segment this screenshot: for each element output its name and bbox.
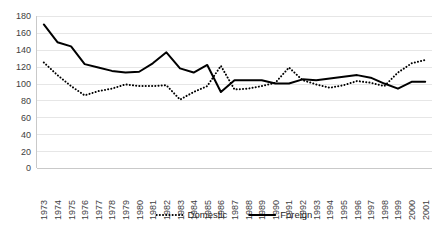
x-axis-tick-label: 1997 (366, 200, 376, 220)
x-axis-tick-label: 1976 (80, 200, 90, 220)
y-axis-tick-label: 40 (21, 130, 31, 140)
x-axis-tick-label: 2000 (407, 200, 417, 220)
x-axis-tick-label: 1988 (244, 200, 254, 220)
line-chart: 020406080100120140160180 197319741975197… (0, 0, 440, 236)
x-axis-tick-label: 1983 (176, 200, 186, 220)
x-axis-tick-label: 1974 (53, 200, 63, 220)
x-axis-tick-label: 1982 (162, 200, 172, 220)
x-axis-tick-labels: 1973197419751976197719781979198019811982… (39, 200, 430, 220)
x-axis-tick-label: 1994 (325, 200, 335, 220)
x-axis-tick-label: 1973 (39, 200, 49, 220)
y-axis-tick-label: 140 (16, 45, 31, 55)
chart-canvas: 020406080100120140160180 197319741975197… (0, 0, 440, 236)
y-axis-tick-label: 100 (16, 79, 31, 89)
y-axis-tick-label: 160 (16, 28, 31, 38)
y-axis-tick-label: 80 (21, 96, 31, 106)
y-axis-tick-label: 180 (16, 11, 31, 21)
x-axis-tick-label: 1979 (121, 200, 131, 220)
y-axis-tick-label: 60 (21, 113, 31, 123)
legend-label-domestic: Domestic (188, 209, 228, 220)
x-axis-tick-label: 1987 (230, 200, 240, 220)
x-axis-tick-label: 1989 (257, 200, 267, 220)
x-axis-tick-label: 1975 (67, 200, 77, 220)
x-axis-tick-label: 1998 (380, 200, 390, 220)
x-axis-tick-label: 1978 (107, 200, 117, 220)
x-axis-tick-label: 1980 (135, 200, 145, 220)
x-axis-tick-label: 1977 (94, 200, 104, 220)
x-axis-tick-label: 1981 (148, 200, 158, 220)
y-axis-tick-label: 0 (26, 163, 31, 173)
x-axis-tick-label: 1995 (339, 200, 349, 220)
x-axis-tick-label: 2001 (421, 200, 431, 220)
x-axis-tick-label: 1993 (312, 200, 322, 220)
y-axis-tick-label: 120 (16, 62, 31, 72)
x-axis-tick-label: 1999 (393, 200, 403, 220)
y-axis-tick-label: 20 (21, 147, 31, 157)
x-axis-tick-label: 1996 (353, 200, 363, 220)
legend-label-foreign: Foreign (280, 209, 312, 220)
